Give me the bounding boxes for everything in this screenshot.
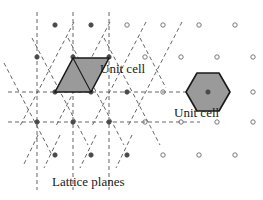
plane-diag-r-4 [104,38,160,145]
lattice-point [125,153,129,157]
lattice-figure: Unit cell Unit cell Lattice planes [0,0,263,200]
unit-cell-hexagon-label: Unit cell [174,105,219,121]
lattice-point [53,153,57,157]
lattice-point [215,55,219,59]
plane-diag-l-7 [116,135,132,168]
lattice-plane-family-diagonal-right [4,38,166,155]
lattice-point [35,120,39,124]
unit-cell-parallelogram-label: Unit cell [100,61,145,77]
lattice-point [35,55,39,59]
hexagon-center-point [206,90,210,94]
lattice-point [251,90,255,94]
lattice-point [233,23,237,27]
plane-diag-r-1 [4,63,52,155]
lattice-point [143,55,147,59]
lattice-row-5 [53,153,237,157]
lattice-point [161,23,165,27]
plane-diag-l-5 [44,135,60,168]
lattice-point [107,120,111,124]
lattice-point [197,23,201,27]
plane-diag-l-6 [80,135,96,168]
lattice-point [125,90,129,94]
lattice-point [89,153,93,157]
lattice-point [71,120,75,124]
lattice-planes-label: Lattice planes [52,174,125,190]
lattice-plane-family-diagonal-left [20,22,182,168]
lattice-point [197,153,201,157]
lattice-point [125,23,129,27]
lattice-point [251,120,255,124]
lattice-point [251,55,255,59]
lattice-point [179,55,183,59]
plane-diag-l-8 [24,135,38,164]
lattice-point [161,153,165,157]
lattice-diagram-svg [0,0,263,200]
lattice-plane-family-vertical [37,12,109,190]
lattice-point [89,23,93,27]
lattice-point [53,23,57,27]
lattice-point [233,153,237,157]
lattice-row-2 [35,55,255,59]
